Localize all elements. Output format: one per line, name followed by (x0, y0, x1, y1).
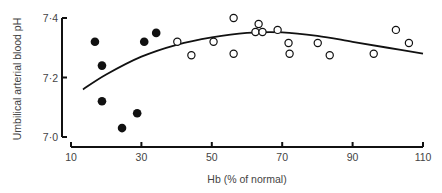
open-data-point (188, 52, 195, 59)
filled-data-point (152, 29, 161, 38)
y-tick-label: 7·4 (43, 12, 58, 24)
filled-data-point (91, 38, 100, 47)
y-tick-label: 7·0 (43, 131, 58, 143)
open-data-point (259, 28, 266, 35)
filled-data-point (98, 97, 107, 106)
open-data-point (255, 20, 262, 27)
open-data-point (392, 26, 399, 33)
x-axis-title: Hb (% of normal) (207, 173, 286, 185)
x-tick-label: 10 (65, 151, 77, 163)
open-data-point (286, 50, 293, 57)
x-tick-label: 90 (347, 151, 359, 163)
open-data-point (174, 38, 181, 45)
open-data-point (314, 39, 321, 46)
open-data-point (370, 50, 377, 57)
open-data-point (230, 14, 237, 21)
open-data-point (405, 39, 412, 46)
scatter-chart: 7·07·27·4 1030507090110 Hb (% of normal)… (0, 0, 442, 193)
y-axis: 7·07·27·4 (43, 12, 67, 143)
open-data-point (285, 39, 292, 46)
filled-data-point (133, 109, 142, 118)
y-axis-title: Umbilical arterial blood pH (11, 18, 23, 141)
x-tick-label: 50 (206, 151, 218, 163)
open-data-point (326, 52, 333, 59)
x-tick-label: 30 (136, 151, 148, 163)
open-data-point (252, 28, 259, 35)
x-tick-label: 70 (276, 151, 288, 163)
open-data-point (230, 50, 237, 57)
y-tick-label: 7·2 (43, 72, 58, 84)
filled-data-point (118, 124, 127, 133)
fitted-curve (83, 32, 423, 89)
data-points (91, 14, 413, 132)
x-tick-label: 110 (415, 151, 432, 163)
filled-data-point (98, 61, 107, 70)
filled-data-point (140, 38, 149, 47)
open-data-point (274, 26, 281, 33)
open-data-point (210, 38, 217, 45)
x-axis: 1030507090110 (65, 142, 431, 163)
